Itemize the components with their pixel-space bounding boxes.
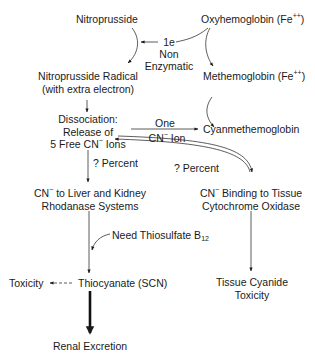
node-text: Tissue Cyanide: [212, 276, 292, 289]
node-text: Methemoglobin (Fe: [203, 70, 293, 82]
edge-label-need-thiosulfate: Need Thiosulfate B12: [112, 229, 209, 242]
node-liver-kidney: CN− to Liver and Kidney Rhodanase System…: [30, 187, 150, 212]
edge-text: 1e: [163, 36, 175, 48]
subscript: 12: [201, 235, 209, 242]
node-text: 5 Free CN: [50, 138, 98, 150]
node-text: (with extra electron): [36, 83, 140, 96]
arrow-oxy-to-methemoglobin: [206, 28, 213, 66]
edge-text: ? Percent: [174, 162, 219, 174]
node-text: Ions: [103, 138, 126, 150]
node-text: Renal Excretion: [53, 340, 127, 352]
edge-text: Enzymatic: [145, 60, 193, 72]
node-thiocyanate: Thiocyanate (SCN): [78, 277, 167, 290]
node-text: Toxicity: [9, 277, 43, 289]
edge-text: One: [155, 117, 175, 129]
node-tissue-binding: CN− Binding to Tissue Cytochrome Oxidase: [196, 187, 306, 212]
node-dissociation: Dissociation: Release of 5 Free CN− Ions: [44, 113, 132, 151]
edge-label-percent-right: ? Percent: [174, 162, 219, 175]
superscript: ++: [293, 69, 301, 76]
node-text: to Liver and Kidney: [53, 187, 146, 199]
node-text: Toxicity: [212, 289, 292, 302]
node-text: CN: [34, 187, 49, 199]
node-methemoglobin: Methemoglobin (Fe++): [203, 70, 305, 83]
node-text: Release of: [44, 126, 132, 139]
edge-label-percent-left: ? Percent: [93, 157, 138, 170]
node-text: ): [302, 70, 306, 82]
edge-text: ? Percent: [93, 157, 138, 169]
edge-text: Non: [159, 48, 178, 60]
node-text: 5 Free CN− Ions: [44, 138, 132, 151]
node-text: Dissociation:: [44, 113, 132, 126]
node-oxyhemoglobin: Oxyhemoglobin (Fe++): [201, 13, 304, 26]
node-text: Cytochrome Oxidase: [196, 200, 306, 213]
node-text: CN− to Liver and Kidney: [30, 187, 150, 200]
node-renal-excretion: Renal Excretion: [52, 340, 128, 353]
edge-text: CN: [149, 132, 164, 144]
node-text: Rhodanase Systems: [30, 200, 150, 213]
edge-label-enzymatic: Enzymatic: [141, 60, 197, 73]
node-text: CN: [200, 187, 215, 199]
node-nitroprusside-radical: Nitroprusside Radical (with extra electr…: [36, 70, 140, 95]
edge-text: Need Thiosulfate B: [112, 229, 201, 241]
node-text: Nitroprusside: [76, 13, 138, 25]
node-tissue-cyanide-toxicity: Tissue Cyanide Toxicity: [212, 276, 292, 301]
node-text: ): [301, 13, 305, 25]
edge-label-cn-ion: CN− Ion: [146, 132, 188, 145]
node-text: Nitroprusside Radical: [36, 70, 140, 83]
edge-label-non: Non: [156, 48, 182, 61]
node-nitroprusside: Nitroprusside: [76, 13, 138, 26]
node-toxicity: Toxicity: [9, 277, 43, 290]
node-text: Binding to Tissue: [219, 187, 302, 199]
arrow-thiosulfate-to-pathway: [92, 234, 110, 250]
edge-label-one: One: [150, 117, 180, 130]
superscript: ++: [293, 12, 301, 19]
node-text: CN− Binding to Tissue: [196, 187, 306, 200]
arrow-nitroprusside-to-radical: [128, 28, 138, 63]
edge-text: Ion: [168, 132, 186, 144]
node-text: Oxyhemoglobin (Fe: [201, 13, 293, 25]
edge-label-1e: 1e: [158, 36, 180, 49]
node-cyanmethemoglobin: Cyanmethemoglobin: [203, 123, 299, 136]
node-text: Thiocyanate (SCN): [78, 277, 167, 289]
line-oxyhemoglobin-to-1e: [176, 28, 208, 42]
node-text: Cyanmethemoglobin: [203, 123, 299, 135]
